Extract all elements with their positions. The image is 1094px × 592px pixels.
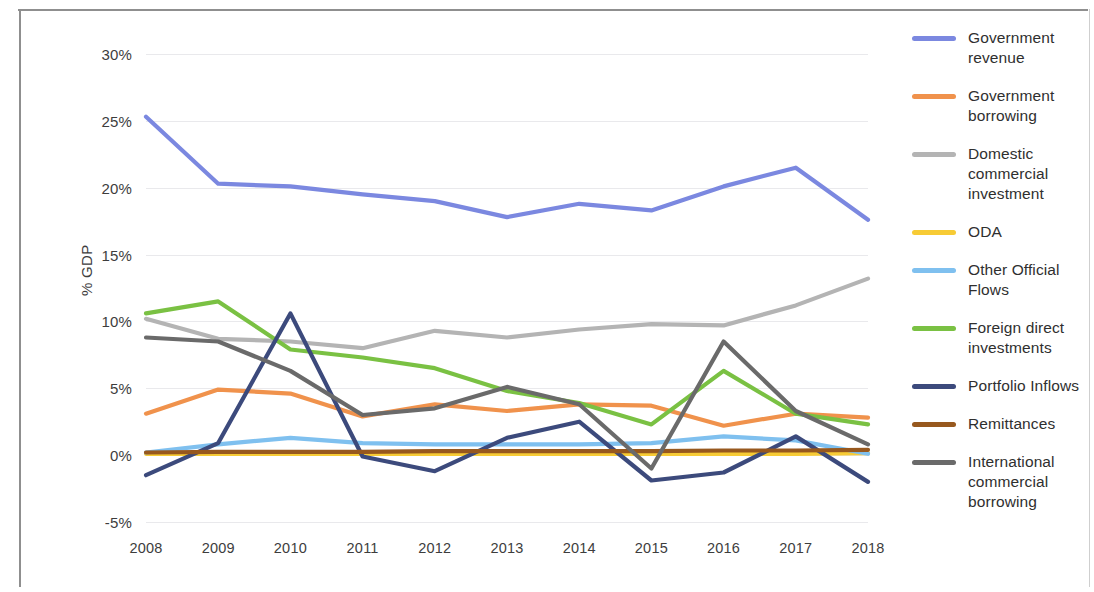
series-line [146, 390, 868, 426]
x-tick-label: 2011 [347, 540, 379, 556]
y-tick-label: 10% [101, 313, 132, 330]
legend-item[interactable]: Other Official Flows [912, 260, 1090, 300]
legend-item[interactable]: Domestic commercial investment [912, 144, 1090, 204]
x-tick-label: 2009 [202, 540, 235, 556]
series-line [146, 450, 868, 453]
x-tick-label: 2014 [563, 540, 596, 556]
legend-color-swatch [912, 384, 956, 389]
y-tick-label: 25% [101, 112, 132, 129]
legend-item-label: Foreign direct investments [968, 318, 1090, 358]
legend-item[interactable]: Remittances [912, 414, 1090, 434]
legend-color-swatch [912, 36, 956, 41]
legend-item-label: Remittances [968, 414, 1055, 434]
y-tick-label: 5% [110, 380, 132, 397]
line-chart: % GDP 30%25%20%15%10%5%0%-5% 20082009201… [0, 0, 900, 592]
series-line [146, 301, 868, 424]
y-tick-label: 20% [101, 179, 132, 196]
legend-item[interactable]: Government borrowing [912, 86, 1090, 126]
y-axis-label: % GDP [78, 244, 95, 296]
legend-color-swatch [912, 230, 956, 235]
y-tick-label: -5% [105, 514, 132, 531]
x-tick-label: 2012 [418, 540, 451, 556]
legend-item-label: Government revenue [968, 28, 1090, 68]
x-tick-label: 2013 [490, 540, 523, 556]
legend-item[interactable]: Portfolio Inflows [912, 376, 1090, 396]
x-tick-label: 2008 [129, 540, 162, 556]
y-tick-label: 30% [101, 46, 132, 63]
legend-item[interactable]: ODA [912, 222, 1090, 242]
legend-item-label: ODA [968, 222, 1002, 242]
legend-color-swatch [912, 326, 956, 331]
x-tick-label: 2018 [851, 540, 884, 556]
x-tick-label: 2016 [707, 540, 740, 556]
series-line [146, 117, 868, 220]
legend-item-label: Portfolio Inflows [968, 376, 1079, 396]
legend-color-swatch [912, 268, 956, 273]
legend-item-label: International commercial borrowing [968, 452, 1090, 512]
series-lines [146, 54, 868, 522]
legend-color-swatch [912, 152, 956, 157]
x-tick-label: 2015 [635, 540, 668, 556]
legend-color-swatch [912, 460, 956, 465]
legend-color-swatch [912, 422, 956, 427]
chart-page: % GDP 30%25%20%15%10%5%0%-5% 20082009201… [0, 0, 1094, 592]
y-tick-label: 0% [110, 447, 132, 464]
legend-color-swatch [912, 94, 956, 99]
x-tick-label: 2017 [779, 540, 812, 556]
series-line [146, 279, 868, 349]
plot-area: 30%25%20%15%10%5%0%-5% 20082009201020112… [146, 54, 868, 522]
x-tick-label: 2010 [274, 540, 307, 556]
gridline [146, 522, 868, 523]
legend-item-label: Other Official Flows [968, 260, 1090, 300]
legend-item-label: Government borrowing [968, 86, 1090, 126]
legend-item[interactable]: Government revenue [912, 28, 1090, 68]
legend-item[interactable]: International commercial borrowing [912, 452, 1090, 512]
legend-item-label: Domestic commercial investment [968, 144, 1090, 204]
legend-item[interactable]: Foreign direct investments [912, 318, 1090, 358]
y-tick-label: 15% [101, 246, 132, 263]
legend: Government revenueGovernment borrowingDo… [912, 28, 1090, 530]
